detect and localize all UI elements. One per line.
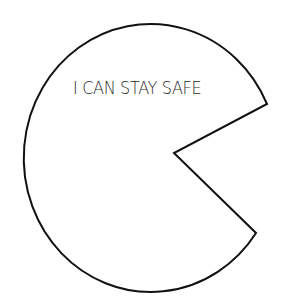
- safety-statement-label: I CAN STAY SAFE: [70, 78, 204, 98]
- pacman-shape: [0, 0, 283, 306]
- pacman-outline: [24, 24, 267, 292]
